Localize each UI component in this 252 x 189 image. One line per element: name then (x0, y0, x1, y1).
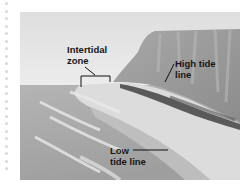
notebook-binding-dots (5, 2, 8, 188)
low-tide-line-label: Low tide line (110, 145, 146, 167)
intertidal-zone-label: Intertidal zone (67, 44, 107, 66)
high-tide-line-label: High tide line (175, 58, 216, 80)
